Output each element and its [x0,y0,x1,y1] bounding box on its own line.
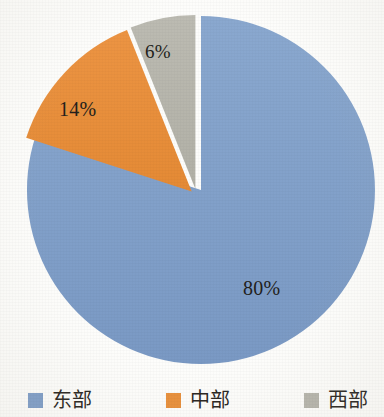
legend-item-central[interactable]: 中部 [166,390,230,410]
slice-label-central: 14% [59,98,97,121]
legend-swatch-icon [28,393,43,408]
slice-label-east: 80% [243,277,281,300]
legend-label-west: 西部 [328,390,368,410]
legend-label-central: 中部 [190,390,230,410]
legend-swatch-icon [166,393,181,408]
slice-label-west: 6% [145,41,171,63]
legend-item-east[interactable]: 东部 [28,390,92,410]
legend-label-east: 东部 [52,390,92,410]
legend-swatch-icon [304,393,319,408]
chart-legend: 东部 中部 西部 [0,383,384,417]
legend-item-west[interactable]: 西部 [304,390,368,410]
chart-plot-area: 80% 14% 6% [0,0,384,376]
pie-chart-figure: 80% 14% 6% 东部 中部 西部 [0,0,384,417]
pie-chart-svg [0,0,384,376]
